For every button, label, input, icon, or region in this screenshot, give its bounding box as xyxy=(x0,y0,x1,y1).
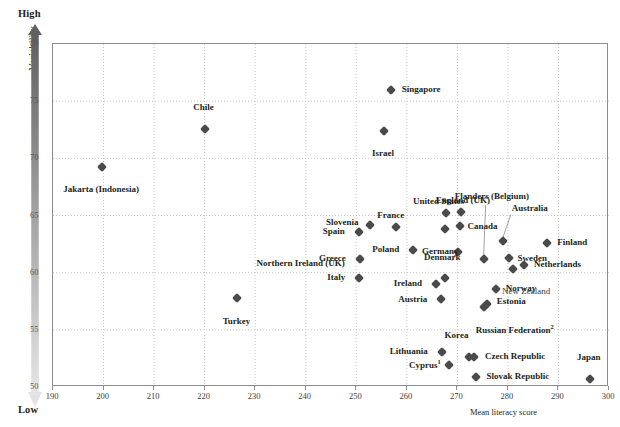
literacy-variability-scatter-chart: High Low Variability Mean literacy score… xyxy=(0,0,620,427)
x-axis-tick-mark xyxy=(52,386,53,390)
data-point-label: Slovak Republic xyxy=(487,371,550,380)
x-axis-tick-mark xyxy=(153,386,154,390)
y-axis-tick-label: 80 xyxy=(30,38,52,48)
data-point-label: Jakarta (Indonesia) xyxy=(63,185,139,194)
x-axis-tick-label: 210 xyxy=(138,391,168,401)
y-axis-tick-label: 70 xyxy=(30,152,52,162)
data-point-label: Israel xyxy=(372,148,394,157)
data-point-label: Norway xyxy=(506,283,537,292)
data-point-label: Japan xyxy=(577,352,601,361)
x-axis-tick-label: 190 xyxy=(37,391,67,401)
x-axis-tick-mark xyxy=(557,386,558,390)
data-point-label: France xyxy=(377,210,404,219)
y-axis-tick-label: 55 xyxy=(30,324,52,334)
data-point-label: Chile xyxy=(193,102,214,111)
x-axis-tick-mark xyxy=(305,386,306,390)
x-axis-tick-label: 300 xyxy=(593,391,620,401)
data-point-label: Turkey xyxy=(223,316,251,325)
data-point-label: Cyprus1 xyxy=(409,359,441,370)
data-point-label: Australia xyxy=(512,203,548,212)
x-axis-tick-mark xyxy=(204,386,205,390)
x-axis-tick-label: 250 xyxy=(340,391,370,401)
y-axis-tick-label: 65 xyxy=(30,210,52,220)
data-point-label: Denmark xyxy=(424,253,461,262)
data-point-label: Netherlands xyxy=(534,259,581,268)
x-axis-tick-mark xyxy=(608,386,609,390)
label-leader-line xyxy=(484,205,486,256)
x-axis-tick-mark xyxy=(406,386,407,390)
data-point-label: Korea xyxy=(445,331,469,340)
x-axis-tick-label: 220 xyxy=(189,391,219,401)
x-axis-tick-mark xyxy=(103,386,104,390)
data-point-label: Russian Federation2 xyxy=(476,323,554,334)
x-axis-tick-label: 280 xyxy=(492,391,522,401)
data-point-label: Finland xyxy=(557,237,587,246)
plot-area xyxy=(52,43,608,386)
data-point-label: Estonia xyxy=(497,296,526,305)
data-point-label: Czech Republic xyxy=(485,352,545,361)
data-point-label: Poland xyxy=(372,244,399,253)
data-point-label: Singapore xyxy=(402,84,441,93)
x-axis-tick-label: 200 xyxy=(88,391,118,401)
x-axis-tick-mark xyxy=(254,386,255,390)
x-axis-tick-mark xyxy=(456,386,457,390)
data-point-label: Lithuania xyxy=(390,346,428,355)
x-axis-tick-label: 240 xyxy=(290,391,320,401)
x-axis-tick-label: 270 xyxy=(441,391,471,401)
data-point-label: Northern Ireland (UK) xyxy=(257,259,345,268)
x-axis-tick-label: 260 xyxy=(391,391,421,401)
x-axis-tick-label: 290 xyxy=(542,391,572,401)
data-point-label: Canada xyxy=(467,221,497,230)
label-leader-line xyxy=(503,215,511,238)
data-point-label: Spain xyxy=(323,226,345,235)
x-axis-title: Mean literacy score xyxy=(470,407,537,417)
x-axis-tick-mark xyxy=(507,386,508,390)
y-axis-tick-label: 75 xyxy=(30,95,52,105)
data-point-label: Austria xyxy=(398,294,427,303)
y-axis-tick-label: 60 xyxy=(30,267,52,277)
data-point-label: Ireland xyxy=(394,279,422,288)
x-axis-tick-label: 230 xyxy=(239,391,269,401)
x-axis-tick-mark xyxy=(355,386,356,390)
data-point-label: Flanders (Belgium) xyxy=(455,191,529,200)
y-axis-tick-label: 50 xyxy=(30,381,52,391)
data-point-label: Italy xyxy=(327,273,345,282)
